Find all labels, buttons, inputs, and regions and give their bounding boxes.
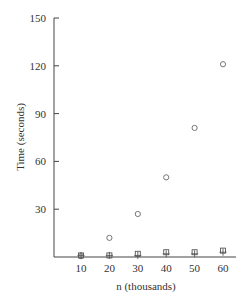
y-tick-label: 60 [35,155,47,167]
x-tick-label: 20 [104,262,116,274]
data-points [78,62,227,259]
x-tick-label: 30 [132,262,144,274]
circle-marker [107,235,112,240]
scatter-chart: 306090120150 102030405060 Time (seconds)… [0,0,244,300]
circle-marker [192,125,197,130]
x-tick-label: 50 [189,262,201,274]
y-ticks: 306090120150 [30,12,60,215]
x-tick-label: 10 [76,262,88,274]
x-ticks: 102030405060 [76,262,230,274]
y-tick-label: 120 [30,60,47,72]
x-tick-label: 60 [218,262,230,274]
y-tick-label: 90 [35,108,47,120]
y-axis-label: Time (seconds) [14,103,27,171]
circle-marker [135,211,140,216]
y-tick-label: 30 [35,203,47,215]
x-axis-label: n (thousands) [116,280,176,293]
y-tick-label: 150 [30,12,47,24]
x-tick-label: 40 [161,262,173,274]
axes [54,18,236,257]
circle-marker [164,175,169,180]
circle-marker [220,62,225,67]
